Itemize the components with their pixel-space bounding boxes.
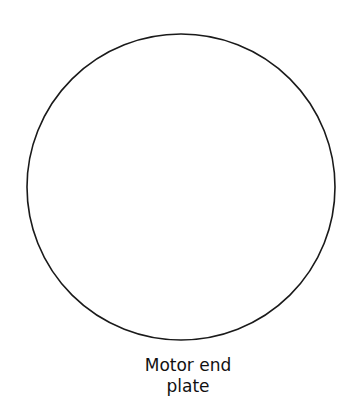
motor-end-plate-circle: [27, 34, 335, 340]
diagram-canvas: [0, 0, 349, 402]
motor-end-plate-label: Motor end plate: [88, 355, 288, 397]
label-line-2: plate: [88, 376, 288, 397]
label-line-1: Motor end: [88, 355, 288, 376]
